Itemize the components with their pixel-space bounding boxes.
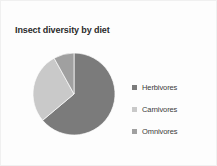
legend-swatch-omnivores [132,129,137,134]
legend-item-carnivores[interactable]: Carnivores [132,103,212,115]
legend-swatch-herbivores [132,85,137,90]
legend-swatch-carnivores [132,107,137,112]
legend-item-herbivores[interactable]: Herbivores [132,81,212,93]
pie-chart-svg [33,53,115,135]
legend-label-omnivores: Omnivores [142,127,177,136]
chart-screenshot: Insect diversity by diet Herbivores Carn… [0,0,217,166]
pie-slice-group [33,53,115,135]
pie-chart [33,53,115,135]
legend-label-carnivores: Carnivores [142,105,177,114]
chart-title: Insect diversity by diet [15,25,110,35]
legend-label-herbivores: Herbivores [142,83,177,92]
legend-item-omnivores[interactable]: Omnivores [132,125,212,137]
chart-legend: Herbivores Carnivores Omnivores [132,81,212,147]
